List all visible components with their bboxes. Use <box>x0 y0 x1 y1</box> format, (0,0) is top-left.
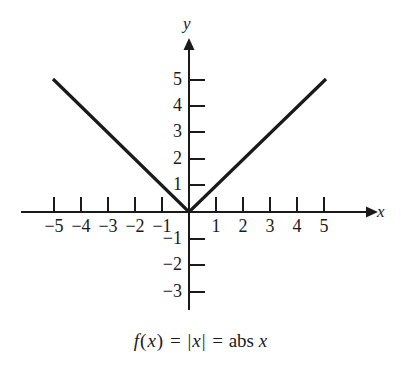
x-tick-label-4: 4 <box>287 216 307 237</box>
caption-variable-1: x <box>147 330 155 351</box>
caption-abs-bar-right: | <box>201 330 207 351</box>
y-axis-label: y <box>183 14 191 34</box>
x-tick-label-2: 2 <box>233 216 253 237</box>
caption-paren-close: ) <box>156 330 164 351</box>
plot-canvas <box>0 0 401 371</box>
caption-variable-2: x <box>192 330 200 351</box>
y-axis <box>184 38 195 310</box>
y-tick-label-2: 2 <box>164 148 182 169</box>
caption-variable-3: x <box>259 330 267 351</box>
y-tick-label-3: 3 <box>164 121 182 142</box>
y-tick-label-1: 1 <box>164 174 182 195</box>
y-tick-label-4: 4 <box>164 95 182 116</box>
x-tick-label-neg3: −3 <box>94 216 122 237</box>
x-tick-label-neg4: −4 <box>67 216 95 237</box>
x-axis-label: x <box>377 202 385 222</box>
caption-abs-text: abs <box>229 330 254 351</box>
x-tick-label-neg1: −1 <box>148 216 176 237</box>
x-tick-label-3: 3 <box>260 216 280 237</box>
figure-caption: f(x) = |x| = abs x <box>0 330 401 352</box>
x-tick-label-1: 1 <box>206 216 226 237</box>
x-tick-label-5: 5 <box>314 216 334 237</box>
x-tick-label-neg5: −5 <box>40 216 68 237</box>
x-tick-label-neg2: −2 <box>121 216 149 237</box>
y-tick-label-neg2: −2 <box>153 254 182 275</box>
y-tick-label-neg3: −3 <box>153 281 182 302</box>
y-tick-label-5: 5 <box>164 69 182 90</box>
y-axis-ticks <box>189 80 205 292</box>
caption-equals-1: = <box>169 330 182 351</box>
caption-equals-2: = <box>211 330 224 351</box>
absolute-value-graph-figure: y x 5 4 3 2 1 −1 −2 −3 −5 −4 −3 −2 −1 1 … <box>0 0 401 371</box>
y-axis-arrow-icon <box>184 38 195 50</box>
